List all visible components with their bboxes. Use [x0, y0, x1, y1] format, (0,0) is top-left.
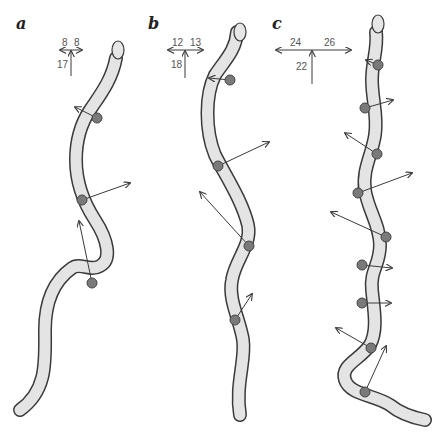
contact-point — [366, 343, 376, 353]
diagram-canvas — [0, 0, 443, 436]
contact-point — [360, 103, 370, 113]
snake-head-b — [234, 23, 246, 41]
snake-c — [344, 15, 425, 420]
contact-point — [92, 113, 102, 123]
contact-point — [357, 298, 367, 308]
contact-point — [230, 315, 240, 325]
contact-point — [357, 260, 367, 270]
snake-head-a — [112, 41, 124, 59]
contact-point — [244, 241, 254, 251]
contact-point — [373, 60, 383, 70]
snake-a — [20, 41, 124, 410]
contact-point — [372, 149, 382, 159]
force-diagram-b — [168, 50, 203, 78]
contact-point — [353, 188, 363, 198]
force-diagram-a — [60, 50, 82, 76]
contact-point — [360, 387, 370, 397]
force-diagram-c — [276, 50, 351, 84]
contact-point — [213, 161, 223, 171]
snake-head-c — [372, 15, 384, 33]
contact-point — [87, 278, 97, 288]
contact-point — [381, 232, 391, 242]
contact-point — [225, 75, 235, 85]
contact-point — [77, 195, 87, 205]
